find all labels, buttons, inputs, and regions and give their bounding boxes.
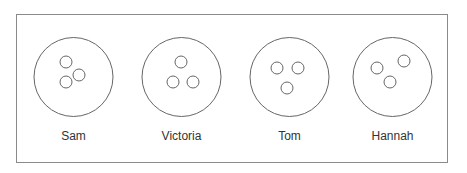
small-circle xyxy=(175,56,187,68)
plate-tom xyxy=(250,38,329,117)
label-hannah: Hannah xyxy=(348,128,438,144)
small-circle xyxy=(73,69,85,81)
plate-hannah xyxy=(353,38,432,117)
large-circle xyxy=(142,38,221,117)
label-sam: Sam xyxy=(29,128,119,144)
small-circle xyxy=(292,62,304,74)
small-circle xyxy=(384,76,396,88)
circles-diagram xyxy=(0,0,467,173)
large-circle xyxy=(250,38,329,117)
small-circle xyxy=(60,76,72,88)
plate-sam xyxy=(34,38,113,117)
small-circle xyxy=(281,82,293,94)
small-circle xyxy=(167,76,179,88)
small-circle xyxy=(271,62,283,74)
label-victoria: Victoria xyxy=(137,128,227,144)
small-circle xyxy=(60,56,72,68)
label-tom: Tom xyxy=(245,128,335,144)
small-circle xyxy=(398,55,410,67)
small-circle xyxy=(371,62,383,74)
small-circle xyxy=(187,76,199,88)
plate-victoria xyxy=(142,38,221,117)
